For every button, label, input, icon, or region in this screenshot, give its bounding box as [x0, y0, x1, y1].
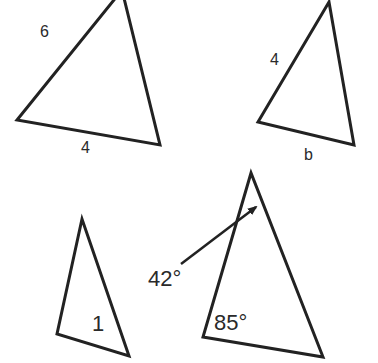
t4-apex-angle-label: 42°: [148, 268, 181, 290]
t2-left-side-label: 4: [270, 52, 279, 68]
t4-bottom-left-angle-label: 85°: [214, 312, 247, 334]
triangle-top-right: [258, 2, 354, 145]
t2-bottom-side-label: b: [304, 147, 313, 163]
t1-left-side-label: 6: [40, 24, 49, 40]
t1-bottom-side-label: 4: [81, 140, 90, 156]
t3-inner-label: 1: [92, 313, 104, 335]
triangle-top-left: [17, 0, 160, 145]
angle-pointer-arrow: [181, 207, 256, 264]
geometry-diagram: [0, 0, 378, 363]
